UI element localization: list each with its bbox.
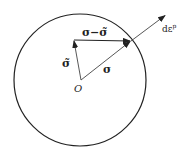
strain-increment-label: dεp: [162, 22, 176, 34]
yield-circle: [14, 14, 146, 146]
sigma-tilde-label: σ̃: [62, 57, 70, 70]
difference-label: σ−σ̃: [82, 26, 107, 39]
origin-label: O: [74, 83, 82, 94]
strain-increment-vector: [131, 16, 165, 42]
sigma-label: σ: [103, 63, 111, 76]
difference-vector: [74, 40, 130, 41]
yield-surface-diagram: σ−σ̃ σ̃ σ O dεp: [0, 0, 188, 160]
sigma-tilde-vector: [74, 41, 81, 80]
